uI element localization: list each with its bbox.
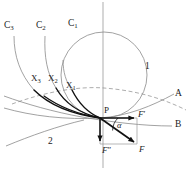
label-curve-c3-subscript: 3 bbox=[10, 24, 13, 31]
diagram-canvas bbox=[0, 0, 195, 170]
label-force-normal: F″ bbox=[102, 146, 111, 155]
label-curve-c2: C2 bbox=[36, 21, 46, 32]
label-region-one: 1 bbox=[145, 62, 150, 72]
label-force-tangential: F′ bbox=[138, 110, 145, 119]
label-point-x3-subscript: 3 bbox=[38, 77, 41, 84]
label-curve-c1: C1 bbox=[68, 19, 78, 30]
label-curve-c2-subscript: 2 bbox=[42, 24, 45, 31]
label-force-normal-prime: ″ bbox=[108, 145, 112, 155]
label-point-x1-subscript: 1 bbox=[73, 84, 76, 91]
label-line-a: A bbox=[175, 89, 182, 99]
label-point-x3: X3 bbox=[31, 74, 41, 84]
label-curve-c3: C3 bbox=[4, 21, 14, 32]
figure-container: C3 C2 C1 X3 X2 X1 P 1 2 A B α F′ F″ F bbox=[0, 0, 195, 170]
lower-boundary-arc bbox=[6, 120, 84, 146]
label-point-x2-subscript: 2 bbox=[55, 77, 58, 84]
label-curve-c1-subscript: 1 bbox=[74, 22, 77, 29]
label-line-b: B bbox=[175, 120, 181, 130]
label-point-x1: X1 bbox=[66, 81, 76, 91]
label-region-two: 2 bbox=[48, 137, 53, 147]
label-force-resultant: F bbox=[139, 145, 145, 154]
label-angle-alpha: α bbox=[117, 121, 121, 130]
label-point-x2: X2 bbox=[48, 74, 58, 84]
label-point-p: P bbox=[104, 106, 109, 115]
label-force-tangential-prime: ′ bbox=[144, 109, 146, 119]
